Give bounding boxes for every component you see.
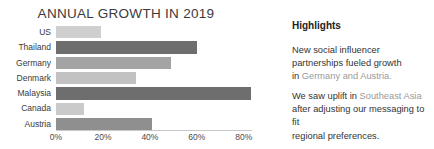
chart-bar[interactable] bbox=[56, 118, 152, 130]
highlight-note-2: We saw uplift in Southeast Asia after ad… bbox=[292, 90, 434, 143]
slide-canvas: ANNUAL GROWTH IN 2019 USThailandGermanyD… bbox=[0, 0, 434, 149]
chart-bar-track bbox=[56, 57, 252, 69]
chart-bar-row: Malaysia bbox=[0, 86, 252, 101]
chart-plot-area: USThailandGermanyDenmarkMalaysiaCanadaAu… bbox=[0, 25, 252, 133]
chart-bar[interactable] bbox=[56, 103, 84, 115]
note-2-line-2: after adjusting our messaging to fit bbox=[292, 104, 424, 127]
note-1-line-1: New social influencer bbox=[292, 45, 380, 55]
note-1-line-3-prefix: in bbox=[292, 71, 302, 81]
chart-category-label: Germany bbox=[0, 56, 55, 71]
chart-x-axis: 0%20%40%60%80% bbox=[0, 130, 252, 146]
chart-bar[interactable] bbox=[56, 57, 171, 69]
chart-bar-row: Canada bbox=[0, 101, 252, 116]
chart-bar-track bbox=[56, 41, 252, 53]
note-2-line-3: regional preferences. bbox=[292, 131, 379, 141]
chart-bar-track bbox=[56, 118, 252, 130]
bar-chart: ANNUAL GROWTH IN 2019 USThailandGermanyD… bbox=[0, 0, 252, 149]
highlights-title: Highlights bbox=[292, 20, 341, 31]
x-tick-label: 80% bbox=[235, 132, 252, 142]
chart-category-label: US bbox=[0, 25, 55, 40]
chart-bar-track bbox=[56, 87, 252, 99]
chart-bar[interactable] bbox=[56, 41, 197, 53]
x-tick-label: 40% bbox=[141, 132, 158, 142]
x-tick-label: 0% bbox=[50, 132, 62, 142]
chart-category-label: Canada bbox=[0, 101, 55, 116]
note-1-line-2: partnerships fueled growth bbox=[292, 58, 402, 68]
highlights-panel: Highlights New social influencer partner… bbox=[292, 0, 434, 149]
x-tick-label: 20% bbox=[94, 132, 111, 142]
chart-category-label: Denmark bbox=[0, 71, 55, 86]
chart-bar-track bbox=[56, 26, 252, 38]
chart-category-label: Malaysia bbox=[0, 86, 55, 101]
chart-bar-row: Germany bbox=[0, 56, 252, 71]
chart-category-label: Thailand bbox=[0, 40, 55, 55]
chart-bar-row: US bbox=[0, 25, 252, 40]
chart-bar-track bbox=[56, 72, 252, 84]
note-1-line-3-accent: Germany and Austria. bbox=[302, 71, 392, 81]
chart-title: ANNUAL GROWTH IN 2019 bbox=[0, 6, 252, 21]
highlight-note-1: New social influencer partnerships fuele… bbox=[292, 44, 434, 84]
chart-bar[interactable] bbox=[56, 26, 101, 38]
note-2-line-1-prefix: We saw uplift in bbox=[292, 91, 360, 101]
chart-bar-row: Thailand bbox=[0, 40, 252, 55]
chart-bar[interactable] bbox=[56, 87, 251, 99]
x-axis-line bbox=[56, 130, 252, 131]
chart-bar[interactable] bbox=[56, 72, 136, 84]
note-2-line-1-accent: Southeast Asia bbox=[360, 91, 422, 101]
x-tick-label: 60% bbox=[188, 132, 205, 142]
chart-bar-track bbox=[56, 103, 252, 115]
chart-bar-row: Denmark bbox=[0, 71, 252, 86]
